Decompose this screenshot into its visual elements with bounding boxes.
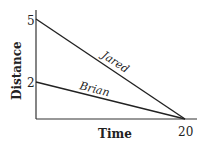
y-axis-label: Distance [10,41,24,100]
x-tick-20: 20 [178,125,193,139]
y-tick-2: 2 [27,76,35,90]
jared-line [36,19,185,119]
x-axis-label: Time [98,127,132,141]
y-tick-5: 5 [27,14,35,28]
distance-time-chart: 5 2 20 Time Distance Jared Brian [0,0,209,145]
